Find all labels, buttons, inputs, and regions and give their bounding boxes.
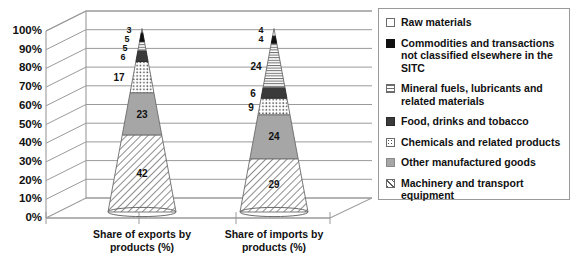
value-label-exports-mineral-fuels: 5 (115, 44, 135, 53)
legend-item-other-manufactured[interactable]: Other manufactured goods (386, 156, 563, 169)
chart-3d-floor (46, 198, 372, 224)
value-label-exports-machinery: 42 (129, 169, 155, 179)
y-tick-60: 60% (0, 100, 42, 111)
legend-item-commodities[interactable]: Commodities and transactions not classif… (386, 37, 563, 75)
y-tick-0: 0% (0, 212, 42, 223)
value-label-exports-commodities: 5 (117, 35, 137, 44)
chart-legend: Raw materials Commodities and transactio… (378, 8, 570, 200)
legend-item-mineral-fuels[interactable]: Mineral fuels, lubricants and related ma… (386, 82, 563, 107)
segment-exports-food-drinks-and-tobacco (136, 51, 148, 62)
value-label-exports-other-manufactured: 23 (129, 110, 155, 120)
legend-item-chemicals[interactable]: Chemicals and related products (386, 136, 563, 149)
legend-label-mineral-fuels: Mineral fuels, lubricants and related ma… (401, 82, 563, 107)
segment-exports-mineral-fuels-lubricants-and-relat (138, 41, 146, 50)
y-tick-10: 10% (0, 193, 42, 204)
y-tick-70: 70% (0, 81, 42, 92)
y-tick-40: 40% (0, 137, 42, 148)
value-label-imports-other-manufactured: 24 (261, 132, 287, 142)
legend-label-other-manufactured: Other manufactured goods (401, 156, 536, 169)
legend-swatch-mineral-fuels-icon (386, 84, 395, 93)
value-label-exports-food-drinks: 6 (113, 53, 133, 62)
legend-swatch-commodities-icon (386, 39, 395, 48)
chart-3d-backwall (46, 11, 372, 218)
value-label-imports-chemicals: 9 (238, 103, 264, 113)
y-tick-100: 100% (0, 25, 42, 36)
category-exports-line1: Share of exports by (93, 228, 191, 240)
segment-imports-commodities-and-transactions-not-c (271, 36, 276, 43)
value-label-exports-chemicals: 17 (106, 73, 132, 83)
legend-swatch-chemicals-icon (386, 138, 395, 147)
legend-label-commodities: Commodities and transactions not classif… (401, 37, 563, 75)
value-label-imports-mineral-fuels: 24 (243, 62, 269, 72)
category-exports-line2: products (%) (110, 241, 174, 253)
segment-exports-raw-materials (141, 29, 142, 33)
legend-label-chemicals: Chemicals and related products (401, 136, 560, 149)
plot-svg (0, 0, 372, 260)
y-tick-50: 50% (0, 119, 42, 130)
legend-item-food-drinks[interactable]: Food, drinks and tobacco (386, 115, 563, 128)
plot-area: 100% 90% 80% 70% 60% 50% 40% 30% 20% 10%… (0, 0, 372, 260)
legend-swatch-other-manufactured-icon (386, 158, 395, 167)
value-label-imports-machinery: 29 (261, 180, 287, 190)
value-label-imports-raw-materials: 4 (251, 26, 271, 35)
chart-canvas: 100% 90% 80% 70% 60% 50% 40% 30% 20% 10%… (0, 0, 577, 260)
legend-swatch-raw-materials-icon (386, 18, 395, 27)
legend-item-raw-materials[interactable]: Raw materials (386, 16, 563, 29)
category-imports-line1: Share of imports by (225, 228, 324, 240)
legend-label-machinery: Machinery and transport equipment (401, 177, 563, 202)
legend-swatch-machinery-icon (386, 179, 395, 188)
y-tick-90: 90% (0, 44, 42, 55)
category-label-exports: Share of exports by products (%) (77, 228, 207, 253)
legend-label-raw-materials: Raw materials (401, 16, 472, 29)
category-label-imports: Share of imports by products (%) (209, 228, 339, 253)
y-tick-20: 20% (0, 175, 42, 186)
value-label-imports-food-drinks: 6 (240, 89, 266, 99)
value-label-imports-commodities: 4 (251, 35, 271, 44)
value-label-exports-raw-materials: 3 (119, 26, 139, 35)
y-tick-80: 80% (0, 62, 42, 73)
y-tick-30: 30% (0, 156, 42, 167)
category-imports-line2: products (%) (242, 241, 306, 253)
legend-label-food-drinks: Food, drinks and tobacco (401, 115, 529, 128)
legend-swatch-food-drinks-icon (386, 117, 395, 126)
legend-item-machinery[interactable]: Machinery and transport equipment (386, 177, 563, 202)
